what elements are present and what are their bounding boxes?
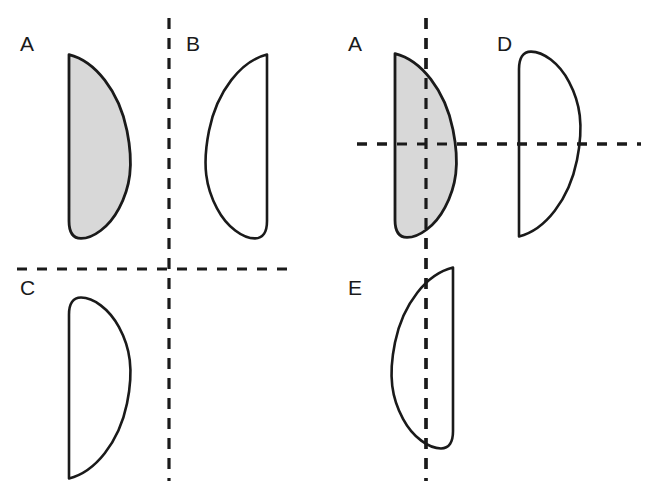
label-left-b: B [186,32,200,55]
figure-canvas: A B C A D E [0,0,649,490]
shape-right-e-path[interactable] [392,268,453,449]
figure-svg: A B C A D E [0,0,649,490]
shape-left-a-path[interactable] [69,55,130,239]
shape-left-c-path[interactable] [69,298,130,479]
label-right-d: D [497,32,512,55]
label-left-a: A [20,32,34,55]
shape-right-d-path[interactable] [519,52,580,237]
label-right-a: A [348,32,362,55]
shape-left-a[interactable] [69,55,130,239]
label-left-c: C [20,276,35,299]
shape-right-e[interactable] [392,268,453,449]
shape-right-d[interactable] [519,52,580,237]
shape-left-b-path[interactable] [206,55,267,239]
left-panel [17,18,291,481]
shape-left-c[interactable] [69,298,130,479]
shape-left-b[interactable] [206,55,267,239]
label-right-e: E [348,276,362,299]
